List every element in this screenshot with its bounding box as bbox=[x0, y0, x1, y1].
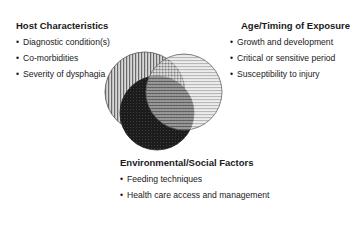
environmental-social-heading: Environmental/Social Factors bbox=[120, 157, 269, 168]
age-timing-block: Age/Timing of Exposure •Growth and devel… bbox=[230, 20, 350, 85]
list-item: •Susceptibility to injury bbox=[230, 69, 350, 79]
host-characteristics-heading: Host Characteristics bbox=[16, 20, 110, 31]
environmental-social-block: Environmental/Social Factors •Feeding te… bbox=[120, 157, 269, 206]
list-item: •Health care access and management bbox=[120, 190, 269, 200]
bullet-icon: • bbox=[230, 53, 237, 63]
bullet-icon: • bbox=[16, 37, 23, 47]
age-timing-heading: Age/Timing of Exposure bbox=[241, 20, 350, 31]
bullet-icon: • bbox=[230, 37, 237, 47]
list-item: •Growth and development bbox=[230, 37, 350, 47]
bullet-icon: • bbox=[230, 69, 237, 79]
list-item: •Co-morbidities bbox=[16, 53, 110, 63]
list-item: •Severity of dysphagia bbox=[16, 69, 110, 79]
list-item: •Diagnostic condition(s) bbox=[16, 37, 110, 47]
circle-age-timing bbox=[146, 54, 222, 130]
bullet-icon: • bbox=[120, 190, 127, 200]
bullet-icon: • bbox=[120, 174, 127, 184]
bullet-icon: • bbox=[16, 69, 23, 79]
list-item: •Critical or sensitive period bbox=[230, 53, 350, 63]
host-characteristics-block: Host Characteristics •Diagnostic conditi… bbox=[16, 20, 110, 85]
bullet-icon: • bbox=[16, 53, 23, 63]
list-item: •Feeding techniques bbox=[120, 174, 269, 184]
